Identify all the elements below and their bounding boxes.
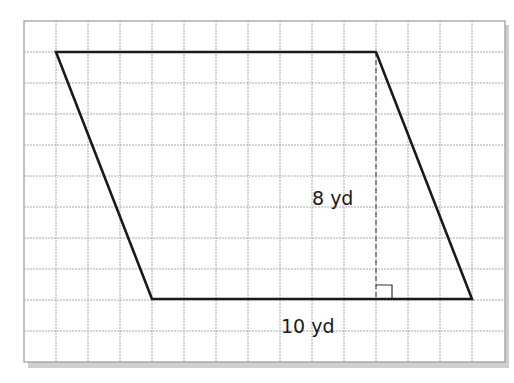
base-label: 10 yd (281, 315, 335, 337)
height-label: 8 yd (312, 187, 353, 209)
grid-paper (24, 21, 505, 362)
parallelogram-diagram: 8 yd 10 yd (0, 0, 514, 383)
